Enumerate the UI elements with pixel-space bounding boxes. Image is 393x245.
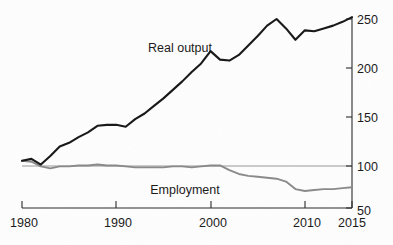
employment-label: Employment <box>150 183 220 197</box>
index-line-chart: 250 200 150 100 50 1980 1990 2000 2010 2… <box>0 0 393 245</box>
xtick-label-2010: 2010 <box>293 216 321 230</box>
ytick-label-250: 250 <box>357 13 378 27</box>
xtick-label-1990: 1990 <box>104 216 132 230</box>
real-output-label: Real output <box>148 41 212 55</box>
xtick-label-2015: 2015 <box>338 216 366 230</box>
xtick-label-2000: 2000 <box>199 216 227 230</box>
chart-screenshot: 250 200 150 100 50 1980 1990 2000 2010 2… <box>0 0 393 245</box>
ytick-label-150: 150 <box>357 111 378 125</box>
series-line-real-output <box>22 17 352 164</box>
ytick-label-100: 100 <box>357 160 378 174</box>
ytick-label-200: 200 <box>357 62 378 76</box>
xtick-label-1980: 1980 <box>10 216 38 230</box>
